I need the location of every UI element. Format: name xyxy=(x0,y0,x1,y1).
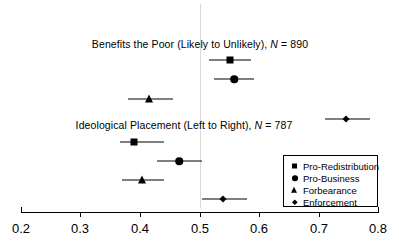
legend-label: Enforcement xyxy=(303,197,357,208)
x-axis-tick-label: 0.6 xyxy=(250,221,268,236)
x-axis-tick xyxy=(319,212,320,217)
group-title-ideological-placement: Ideological Placement (Left to Right), N… xyxy=(76,119,293,131)
x-axis-tick-label: 0.7 xyxy=(310,221,328,236)
estimate-row xyxy=(0,72,399,86)
x-axis-tick-label: 0.5 xyxy=(191,221,209,236)
x-axis-tick xyxy=(140,212,141,217)
estimate-row xyxy=(0,92,399,106)
point-estimate-marker-enforcement xyxy=(219,195,226,202)
x-axis-tick xyxy=(80,212,81,217)
legend: Pro-Redistribution Pro-Business Forbeara… xyxy=(283,155,378,207)
point-estimate-marker-pro-redistribution xyxy=(131,139,138,146)
group2-title-text: Ideological Placement (Left to Right), xyxy=(76,119,255,131)
x-axis-tick xyxy=(200,212,201,217)
point-estimate-marker-enforcement xyxy=(342,115,349,122)
plot-area: Benefits the Poor (Likely to Unlikely), … xyxy=(0,0,399,246)
legend-label: Pro-Business xyxy=(303,173,360,184)
circle-marker-icon xyxy=(292,175,298,181)
legend-label: Pro-Redistribution xyxy=(303,161,379,172)
point-estimate-marker-pro-business xyxy=(175,157,183,165)
estimate-row xyxy=(0,135,399,149)
x-axis-tick xyxy=(378,207,379,212)
x-axis-tick-label: 0.4 xyxy=(131,221,149,236)
square-marker-icon xyxy=(292,164,297,169)
diamond-marker-icon xyxy=(292,199,297,204)
forest-plot-figure: Benefits the Poor (Likely to Unlikely), … xyxy=(0,0,399,246)
point-estimate-marker-forbearance xyxy=(138,176,146,184)
group1-n-value: = 890 xyxy=(278,38,308,50)
triangle-marker-icon xyxy=(291,187,297,193)
confidence-interval-line xyxy=(120,142,164,143)
x-axis-tick xyxy=(21,207,22,212)
point-estimate-marker-pro-business xyxy=(230,75,238,83)
legend-label: Forbearance xyxy=(303,185,357,196)
x-axis-tick xyxy=(259,212,260,217)
x-axis-tick-label: 0.3 xyxy=(71,221,89,236)
group-title-benefits-the-poor: Benefits the Poor (Likely to Unlikely), … xyxy=(92,38,308,50)
x-axis-tick-label: 0.8 xyxy=(369,221,387,236)
group2-n-value: = 787 xyxy=(262,119,292,131)
group2-n-symbol: N xyxy=(255,119,263,131)
estimate-row xyxy=(0,53,399,67)
point-estimate-marker-forbearance xyxy=(145,95,153,103)
group1-title-text: Benefits the Poor (Likely to Unlikely), xyxy=(92,38,271,50)
x-axis-tick-label: 0.2 xyxy=(12,221,30,236)
point-estimate-marker-pro-redistribution xyxy=(227,57,234,64)
